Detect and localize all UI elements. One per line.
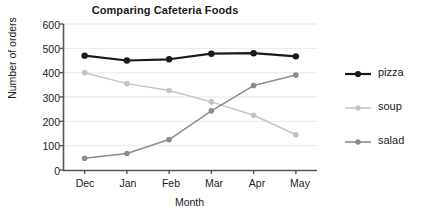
data-point-pizza-Apr — [250, 50, 256, 56]
series-soup — [82, 70, 299, 138]
data-point-pizza-Dec — [81, 52, 87, 58]
data-point-pizza-Feb — [166, 56, 172, 62]
data-point-salad-Dec — [82, 156, 88, 162]
data-point-soup-May — [293, 132, 299, 138]
legend-label-salad: salad — [378, 134, 404, 146]
legend: pizza soup salad — [345, 55, 404, 157]
data-point-salad-Feb — [166, 137, 172, 143]
legend-swatch-soup — [345, 100, 371, 112]
legend-item-pizza[interactable]: pizza — [345, 55, 404, 89]
legend-swatch-salad — [345, 134, 371, 146]
data-point-soup-Dec — [82, 70, 88, 76]
data-point-soup-Jan — [124, 81, 130, 87]
data-point-salad-May — [293, 72, 299, 78]
series-line-pizza — [85, 53, 296, 60]
series-pizza — [81, 50, 299, 64]
line-chart: Comparing Cafeteria Foods Number of orde… — [0, 0, 440, 218]
legend-label-pizza: pizza — [378, 66, 404, 78]
data-point-pizza-May — [293, 53, 299, 59]
legend-swatch-pizza — [345, 66, 371, 78]
data-point-soup-Apr — [251, 112, 257, 118]
data-point-salad-Jan — [124, 151, 130, 157]
data-point-pizza-Mar — [208, 50, 214, 56]
legend-item-salad[interactable]: salad — [345, 123, 404, 157]
legend-label-soup: soup — [378, 100, 402, 112]
data-point-salad-Apr — [251, 83, 257, 89]
data-point-pizza-Jan — [124, 57, 130, 63]
data-point-salad-Mar — [209, 108, 215, 114]
series-salad — [82, 72, 299, 161]
data-series-layer — [81, 50, 299, 161]
legend-item-soup[interactable]: soup — [345, 89, 404, 123]
data-point-soup-Feb — [166, 88, 172, 94]
data-point-soup-Mar — [209, 99, 215, 105]
